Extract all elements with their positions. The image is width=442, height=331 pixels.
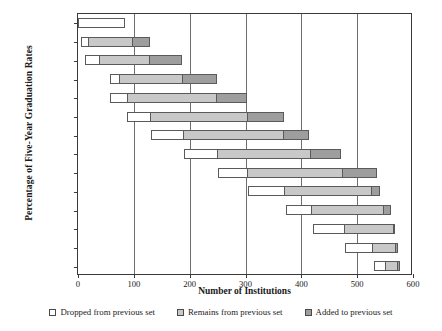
stacked-bar[interactable] <box>110 93 246 103</box>
y-tick-mark <box>74 23 78 24</box>
x-tick-mark-200 <box>190 274 191 278</box>
bar-segment-added[interactable] <box>149 55 183 65</box>
bar-chart: Percentage of Five-Year Graduation Rates… <box>0 0 442 331</box>
bar-segment-added[interactable] <box>395 243 398 253</box>
bar-segment-dropped[interactable] <box>286 205 313 215</box>
bar-segment-remains[interactable] <box>247 168 343 178</box>
y-tick-mark <box>74 136 78 137</box>
bar-segment-added[interactable] <box>247 112 283 122</box>
stacked-bar[interactable] <box>127 112 283 122</box>
bar-segment-dropped[interactable] <box>151 130 185 140</box>
bar-segment-added[interactable] <box>310 149 341 159</box>
bar-row <box>78 145 411 164</box>
bar-row <box>78 108 411 127</box>
y-tick-mark <box>74 267 78 268</box>
bar-segment-added[interactable] <box>393 224 396 234</box>
bar-segment-dropped[interactable] <box>345 243 373 253</box>
stacked-bar[interactable] <box>374 261 399 271</box>
bar-segment-remains[interactable] <box>150 112 249 122</box>
stacked-bar[interactable] <box>151 130 309 140</box>
y-tick-mark <box>74 192 78 193</box>
bar-row <box>78 70 411 89</box>
y-tick-mark <box>74 248 78 249</box>
legend-item-added[interactable]: Added to previous set <box>305 307 393 317</box>
x-axis-title: Number of Institutions <box>77 286 412 296</box>
legend-item-remains[interactable]: Remains from previous set <box>177 307 283 317</box>
bar-segment-remains[interactable] <box>183 130 284 140</box>
bar-row <box>78 220 411 239</box>
bar-segment-added[interactable] <box>342 168 377 178</box>
bar-segment-remains[interactable] <box>344 224 394 234</box>
x-tick-mark-100 <box>134 274 135 278</box>
bar-segment-added[interactable] <box>132 37 150 47</box>
legend-label: Remains from previous set <box>188 307 283 317</box>
x-tick-mark-600 <box>413 274 414 278</box>
legend-swatch-added <box>305 309 312 316</box>
bar-segment-dropped[interactable] <box>127 112 150 122</box>
bar-row <box>78 51 411 70</box>
bar-segment-dropped[interactable] <box>184 149 218 159</box>
legend-swatch-remains <box>177 309 184 316</box>
y-tick-mark <box>74 61 78 62</box>
bar-row <box>78 89 411 108</box>
y-tick-mark <box>74 173 78 174</box>
y-tick-mark <box>74 117 78 118</box>
bar-segment-dropped[interactable] <box>110 93 128 103</box>
stacked-bar[interactable] <box>85 55 181 65</box>
bar-segment-dropped[interactable] <box>78 18 125 28</box>
stacked-bar[interactable] <box>110 74 216 84</box>
bar-row <box>78 33 411 52</box>
bar-segment-remains[interactable] <box>372 243 397 253</box>
bar-row <box>78 201 411 220</box>
bar-segment-added[interactable] <box>283 130 310 140</box>
stacked-bar[interactable] <box>81 37 149 47</box>
bar-segment-dropped[interactable] <box>313 224 345 234</box>
bar-segment-remains[interactable] <box>284 186 372 196</box>
y-tick-mark <box>74 42 78 43</box>
bar-row <box>78 182 411 201</box>
bar-row <box>78 239 411 258</box>
x-tick-mark-300 <box>246 274 247 278</box>
chart-legend: Dropped from previous setRemains from pr… <box>0 307 442 317</box>
y-tick-mark <box>74 229 78 230</box>
x-tick-mark-400 <box>301 274 302 278</box>
bar-segment-dropped[interactable] <box>218 168 249 178</box>
x-tick-mark-0 <box>78 274 79 278</box>
bar-segment-remains[interactable] <box>127 93 216 103</box>
bar-row <box>78 14 411 33</box>
bar-row <box>78 126 411 145</box>
stacked-bar[interactable] <box>218 168 377 178</box>
bar-segment-remains[interactable] <box>311 205 384 215</box>
y-tick-mark <box>74 154 78 155</box>
stacked-bar[interactable] <box>248 186 379 196</box>
bar-segment-dropped[interactable] <box>85 55 100 65</box>
legend-swatch-dropped <box>49 309 56 316</box>
bar-segment-added[interactable] <box>397 261 400 271</box>
plot-area: 75-10070-9565-9060-8555-8050-7545-7040-6… <box>77 13 412 275</box>
bar-row <box>78 164 411 183</box>
y-axis-title: Percentage of Five-Year Graduation Rates <box>24 8 34 258</box>
stacked-bar[interactable] <box>78 18 124 28</box>
bar-segment-added[interactable] <box>383 205 391 215</box>
legend-label: Dropped from previous set <box>60 307 155 317</box>
x-tick-mark-500 <box>357 274 358 278</box>
legend-label: Added to previous set <box>316 307 393 317</box>
bar-row <box>78 257 411 276</box>
bar-segment-added[interactable] <box>216 93 248 103</box>
bar-segment-remains[interactable] <box>119 74 183 84</box>
legend-item-dropped[interactable]: Dropped from previous set <box>49 307 155 317</box>
y-tick-mark <box>74 98 78 99</box>
bar-segment-added[interactable] <box>182 74 217 84</box>
bar-segment-remains[interactable] <box>88 37 133 47</box>
bar-segment-added[interactable] <box>371 186 380 196</box>
stacked-bar[interactable] <box>286 205 391 215</box>
stacked-bar[interactable] <box>345 243 397 253</box>
stacked-bar[interactable] <box>184 149 340 159</box>
bar-segment-remains[interactable] <box>217 149 312 159</box>
stacked-bar[interactable] <box>313 224 395 234</box>
bar-segment-remains[interactable] <box>99 55 149 65</box>
bar-segment-dropped[interactable] <box>248 186 284 196</box>
y-tick-mark <box>74 80 78 81</box>
y-tick-mark <box>74 211 78 212</box>
